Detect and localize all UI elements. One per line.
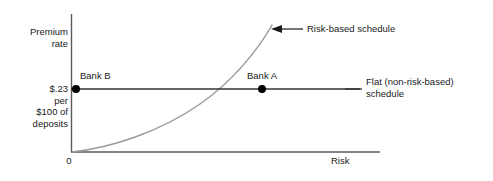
flat-schedule-label: Flat (non-risk-based) schedule	[366, 76, 492, 99]
y-axis-value-label: $.23 per $100 of deposits	[4, 83, 68, 129]
bank-a-label: Bank A	[247, 70, 277, 82]
y-axis-title: Premium rate	[8, 26, 68, 49]
chart-figure: Premium rate $.23 per $100 of deposits 0…	[0, 0, 493, 181]
risk-based-schedule-label: Risk-based schedule	[307, 23, 395, 35]
bank-b-data-point	[72, 85, 80, 93]
bank-b-label: Bank B	[80, 70, 111, 82]
x-axis-title: Risk	[331, 155, 371, 167]
origin-label: 0	[62, 155, 76, 167]
bank-a-data-point	[258, 85, 266, 93]
risk-based-annotation-arrow-icon	[271, 25, 282, 33]
